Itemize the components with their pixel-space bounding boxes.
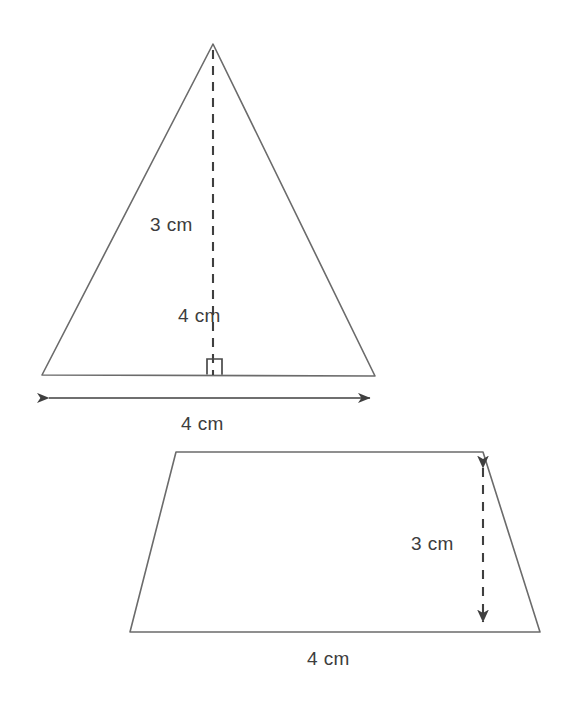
- right-angle-marker: [207, 359, 222, 375]
- trapezoid-height-label: 3 cm: [411, 533, 454, 555]
- triangle-height-label: 4 cm: [178, 305, 221, 327]
- trapezoid-figure: [130, 452, 540, 632]
- trapezoid-base-label: 4 cm: [307, 648, 350, 670]
- triangle-figure: [42, 44, 375, 398]
- triangle-base-label: 4 cm: [181, 413, 224, 435]
- trapezoid-outline: [130, 452, 540, 632]
- triangle-slant-side-label: 3 cm: [150, 214, 193, 236]
- geometry-figure-canvas: [0, 0, 568, 702]
